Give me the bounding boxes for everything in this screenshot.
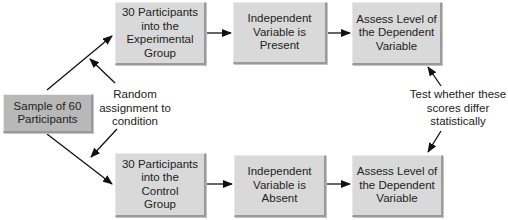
arrow-sample-to-control bbox=[47, 134, 112, 184]
test-difference-annotation: Test whether these scores differ statist… bbox=[408, 88, 508, 129]
assess-bottom-label: Assess Level of the Dependent Variable bbox=[357, 165, 438, 206]
control-group-box: 30 Participants into the Control Group bbox=[115, 153, 206, 217]
iv-present-box: Independent Variable is Present bbox=[233, 2, 327, 64]
control-group-label: 30 Participants into the Control Group bbox=[122, 158, 198, 212]
sample-label: Sample of 60 Participants bbox=[14, 100, 82, 127]
iv-present-label: Independent Variable is Present bbox=[248, 12, 312, 53]
arrow-random-to-top-line bbox=[90, 59, 115, 83]
assess-top-label: Assess Level of the Dependent Variable bbox=[356, 13, 437, 54]
random-assignment-annotation: Random assignment to condition bbox=[95, 88, 175, 129]
arrow-random-to-bottom-line bbox=[91, 129, 117, 157]
experimental-group-box: 30 Participants into the Experimental Gr… bbox=[115, 2, 206, 65]
iv-absent-box: Independent Variable is Absent bbox=[234, 155, 326, 217]
sample-box: Sample of 60 Participants bbox=[3, 94, 93, 133]
iv-absent-label: Independent Variable is Absent bbox=[248, 165, 312, 206]
assess-bottom-box: Assess Level of the Dependent Variable bbox=[352, 155, 443, 217]
arrow-test-to-assess-top bbox=[428, 67, 441, 86]
experimental-group-label: 30 Participants into the Experimental Gr… bbox=[122, 6, 198, 60]
assess-top-box: Assess Level of the Dependent Variable bbox=[352, 2, 442, 65]
arrow-sample-to-experimental bbox=[47, 36, 112, 90]
arrow-test-to-assess-bottom bbox=[428, 131, 441, 152]
